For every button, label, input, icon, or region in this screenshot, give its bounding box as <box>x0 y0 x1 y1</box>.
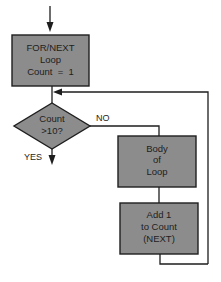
increment-line-3: (NEXT) <box>143 233 175 244</box>
increment-line-2: to Count <box>141 221 177 232</box>
increment-line-1: Add 1 <box>147 209 172 220</box>
arrow-down-icon <box>49 155 56 165</box>
init-line-1: FOR/NEXT <box>26 42 74 53</box>
init-line-2: Loop <box>40 54 61 65</box>
arrow-down-icon <box>47 22 54 32</box>
entry-arrow <box>47 6 54 32</box>
body-line-1: Body <box>146 143 168 154</box>
decision-line-1: Count <box>39 113 65 124</box>
decision-node: Count >10? <box>14 103 90 149</box>
flowchart-diagram: FOR/NEXT Loop Count = 1 Count >10? NO YE… <box>0 0 221 282</box>
body-line-2: of <box>153 154 161 165</box>
no-branch: NO <box>90 113 159 136</box>
init-line-3: Count = 1 <box>27 66 74 77</box>
yes-branch: YES <box>24 149 56 165</box>
init-node: FOR/NEXT Loop Count = 1 <box>12 35 89 86</box>
yes-label: YES <box>24 152 42 162</box>
body-node: Body of Loop <box>118 136 196 187</box>
increment-to-loop-line <box>160 254 208 264</box>
increment-node: Add 1 to Count (NEXT) <box>120 203 198 254</box>
body-line-3: Loop <box>146 166 167 177</box>
arrow-left-icon <box>53 89 62 96</box>
no-label: NO <box>96 113 110 123</box>
decision-line-2: >10? <box>41 125 62 136</box>
